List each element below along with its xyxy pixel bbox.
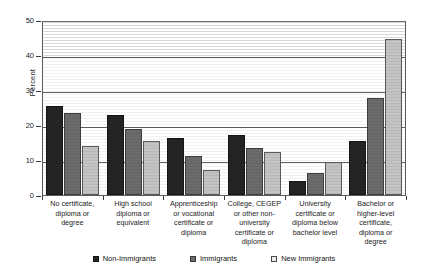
bar-group: [286, 22, 347, 195]
y-axis-tick-label: 10: [8, 156, 34, 165]
bar: [228, 135, 245, 195]
x-axis-category-label-line: diploma or: [38, 209, 107, 219]
x-axis-category-label-line: or other non-: [220, 209, 289, 219]
y-axis-title: Percent: [28, 53, 37, 113]
y-axis-tick-label: 50: [8, 16, 34, 25]
x-axis-category-label-line: diploma or: [99, 209, 168, 219]
bar: [167, 138, 184, 195]
bar: [325, 162, 342, 195]
y-axis-tick-label: 20: [8, 121, 34, 130]
bar: [125, 129, 142, 196]
legend-label: New Immigrants: [281, 254, 335, 263]
bar: [289, 181, 306, 195]
x-axis-category-label-line: degree: [341, 237, 410, 247]
bar: [203, 170, 220, 195]
bar: [107, 115, 124, 196]
x-axis-category-label-line: diploma: [220, 237, 289, 247]
bar: [307, 173, 324, 195]
legend-item[interactable]: New Immigrants: [271, 254, 335, 263]
x-axis-category-label-line: diploma below: [281, 218, 350, 228]
bar-group: [346, 22, 406, 195]
x-axis-category-label-line: diploma: [159, 228, 228, 238]
x-axis-category-label: High schooldiploma orequivalent: [99, 199, 168, 228]
bar: [385, 39, 402, 195]
chart-legend: Non-ImmigrantsImmigrantsNew Immigrants: [0, 254, 428, 263]
x-axis-category-label: Bachelor orhigher-levelcertificate,diplo…: [341, 199, 410, 247]
bar: [367, 98, 384, 195]
bar: [246, 148, 263, 195]
bar-chart-figure: Percent 01020304050 No certificate,diplo…: [0, 0, 428, 270]
bar: [349, 141, 366, 195]
x-axis-category-label-line: certificate or: [281, 209, 350, 219]
legend-swatch-icon: [93, 256, 99, 262]
bar: [64, 113, 81, 195]
x-axis-category-label-line: No certificate,: [38, 199, 107, 209]
x-axis-category-label: Universitycertificate ordiploma belowbac…: [281, 199, 350, 237]
y-axis-tick-mark: [36, 21, 41, 22]
x-axis-category-label: No certificate,diploma ordegree: [38, 199, 107, 228]
bar-group: [225, 22, 286, 195]
legend-label: Non-Immigrants: [103, 254, 156, 263]
x-axis-category-label-line: College, CEGEP: [220, 199, 289, 209]
y-axis-tick-mark: [36, 126, 41, 127]
y-axis-tick-mark: [36, 161, 41, 162]
x-axis-category-label-line: diploma or: [341, 228, 410, 238]
x-axis-category-label-line: University: [281, 199, 350, 209]
bar: [185, 156, 202, 195]
bar-group-container: [43, 22, 405, 195]
bar: [82, 146, 99, 195]
bar-group: [164, 22, 225, 195]
bar-group: [104, 22, 165, 195]
bar: [264, 152, 281, 195]
x-axis-label-group: No certificate,diploma ordegreeHigh scho…: [42, 199, 406, 254]
bar: [46, 106, 63, 195]
y-axis-tick-label: 0: [8, 191, 34, 200]
legend-item[interactable]: Immigrants: [190, 254, 237, 263]
plot-area: [42, 21, 406, 196]
y-axis-tick-label: 30: [8, 86, 34, 95]
bar-group: [43, 22, 104, 195]
x-axis-category-label: College, CEGEPor other non-universitycer…: [220, 199, 289, 247]
x-axis-category-label-line: degree: [38, 218, 107, 228]
x-axis-category-label-line: Bachelor or: [341, 199, 410, 209]
x-axis-category-label-line: High school: [99, 199, 168, 209]
legend-item[interactable]: Non-Immigrants: [93, 254, 156, 263]
x-axis-category-label-line: certificate,: [341, 218, 410, 228]
x-axis-category-label-line: higher-level: [341, 209, 410, 219]
x-axis-category-label-line: university: [220, 218, 289, 228]
x-axis-category-label: Apprenticeshipor vocationalcertificate o…: [159, 199, 228, 237]
bar: [143, 141, 160, 195]
legend-swatch-icon: [190, 256, 196, 262]
x-axis-category-label-line: bachelor level: [281, 228, 350, 238]
y-axis-tick-label: 40: [8, 51, 34, 60]
y-axis-tick-mark: [36, 91, 41, 92]
legend-label: Immigrants: [200, 254, 237, 263]
x-axis-category-label-line: certificate or: [220, 228, 289, 238]
legend-swatch-icon: [271, 256, 277, 262]
x-axis-category-label-line: certificate or: [159, 218, 228, 228]
x-axis-category-label-line: equivalent: [99, 218, 168, 228]
y-axis-tick-mark: [36, 56, 41, 57]
y-axis-tick-mark: [36, 196, 41, 197]
x-axis-category-label-line: or vocational: [159, 209, 228, 219]
x-axis-category-label-line: Apprenticeship: [159, 199, 228, 209]
